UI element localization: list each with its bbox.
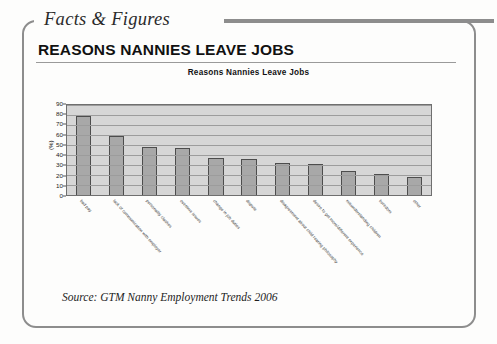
- gridline: [67, 155, 431, 156]
- eyebrow-rule: [194, 19, 494, 23]
- y-tick-mark: [63, 185, 66, 186]
- y-tick-mark: [63, 165, 66, 166]
- x-label-slot: disagreement about child rearing philoso…: [266, 197, 299, 297]
- bar-slot: [332, 105, 365, 195]
- eyebrow-banner: Facts & Figures: [22, 8, 476, 34]
- x-label-slot: lack of communication with employer: [99, 197, 132, 297]
- y-tick-mark: [63, 175, 66, 176]
- x-tick-label: boredom: [378, 199, 392, 214]
- x-label-slot: boredom: [365, 197, 398, 297]
- gridline: [67, 185, 431, 186]
- plot-area: [66, 104, 432, 196]
- gridline: [67, 165, 431, 166]
- y-axis-title: (%): [47, 140, 54, 150]
- bar-slot: [365, 105, 398, 195]
- y-tick-label: 30: [56, 162, 63, 168]
- source-note: Source: GTM Nanny Employment Trends 2006: [62, 291, 277, 303]
- x-axis-labels: bad paylack of communication with employ…: [66, 197, 432, 297]
- y-tick-mark: [63, 124, 66, 125]
- y-tick-label: 0: [60, 193, 63, 199]
- gridline: [67, 135, 431, 136]
- y-tick-label: 90: [56, 101, 63, 107]
- bar-slot: [398, 105, 431, 195]
- x-label-slot: misunderstanding children: [332, 197, 365, 297]
- bar-slot: [166, 105, 199, 195]
- x-label-slot: personality clashes: [133, 197, 166, 297]
- page-root: Facts & Figures REASONS NANNIES LEAVE JO…: [0, 0, 497, 344]
- x-label-slot: overtime issues: [166, 197, 199, 297]
- gridline: [67, 175, 431, 176]
- x-label-slot: bad pay: [66, 197, 99, 297]
- bar: [407, 177, 422, 195]
- bar-series: [67, 105, 431, 195]
- x-tick-label: other: [411, 199, 421, 209]
- bar: [275, 163, 290, 195]
- y-tick-mark: [63, 134, 66, 135]
- gridline: [67, 125, 431, 126]
- y-tick-mark: [63, 144, 66, 145]
- bar-slot: [266, 105, 299, 195]
- bar: [308, 164, 323, 195]
- gridline: [67, 145, 431, 146]
- y-tick-mark: [63, 104, 66, 105]
- y-tick-label: 10: [56, 183, 63, 189]
- page-title: REASONS NANNIES LEAVE JOBS: [38, 41, 294, 59]
- y-tick-label: 60: [56, 132, 63, 138]
- chart-plot: 0102030405060708090: [66, 104, 432, 196]
- headline-divider: [36, 62, 456, 63]
- bar-slot: [199, 105, 232, 195]
- bar-slot: [133, 105, 166, 195]
- x-label-slot: dispute: [232, 197, 265, 297]
- y-tick-label: 20: [56, 172, 63, 178]
- bar-slot: [299, 105, 332, 195]
- gridline: [67, 105, 431, 106]
- x-label-slot: other: [399, 197, 432, 297]
- bar-slot: [232, 105, 265, 195]
- gridline: [67, 115, 431, 116]
- bar: [208, 158, 223, 195]
- chart-title: Reasons Nannies Leave Jobs: [0, 68, 497, 77]
- y-tick-mark: [63, 155, 66, 156]
- bar-slot: [67, 105, 100, 195]
- x-tick-label: dispute: [245, 199, 257, 212]
- x-label-slot: change in job duties: [199, 197, 232, 297]
- eyebrow-label: Facts & Figures: [44, 9, 170, 30]
- y-tick-label: 50: [56, 142, 63, 148]
- bar-slot: [100, 105, 133, 195]
- y-tick-label: 70: [56, 121, 63, 127]
- x-label-slot: desire to get more/different experience: [299, 197, 332, 297]
- y-tick-label: 80: [56, 111, 63, 117]
- y-tick-label: 40: [56, 152, 63, 158]
- x-tick-label: bad pay: [79, 199, 92, 213]
- y-tick-mark: [63, 114, 66, 115]
